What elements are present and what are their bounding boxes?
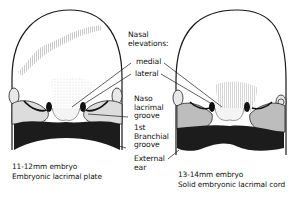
label-groove: groove [134,112,164,121]
caption-right: 13-14mm embryo Solid embryonic lacrimal … [178,170,285,189]
label-groove-2: groove [134,141,169,150]
label-elevations: elevations: [128,40,169,49]
caption-left-stage: 11-12mm embryo [12,162,102,172]
caption-right-stage: 13-14mm embryo [178,170,285,180]
label-medial: medial [136,58,161,67]
label-ear: ear [134,164,165,173]
label-lateral: lateral [135,70,159,79]
left-embryo-head [9,10,122,150]
caption-left-description: Embryonic lacrimal plate [12,172,102,182]
label-external-ear: External ear [134,155,165,172]
label-nasal-elevations: Nasal elevations: [128,31,169,48]
label-branchial-groove: 1st Branchial groove [134,124,169,150]
caption-right-description: Solid embryonic lacrimal cord [178,180,285,190]
caption-left: 11-12mm embryo Embryonic lacrimal plate [12,162,102,181]
label-nasolacrimal-groove: Naso lacrimal groove [134,95,164,121]
